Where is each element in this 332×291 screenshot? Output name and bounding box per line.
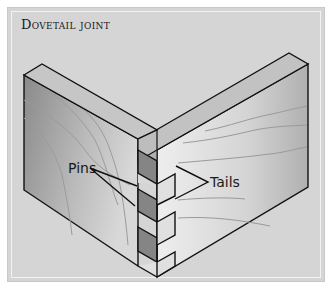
tails-label: Tails bbox=[209, 174, 240, 190]
tail-board bbox=[139, 53, 308, 277]
figure-title: Dovetail joint bbox=[21, 17, 110, 32]
dovetail-illustration: Pins Tails bbox=[0, 0, 332, 291]
pins-label: Pins bbox=[68, 160, 96, 176]
